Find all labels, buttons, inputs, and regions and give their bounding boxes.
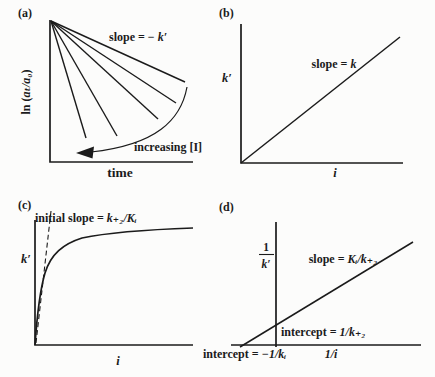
arrowhead-icon xyxy=(76,147,94,159)
panel-d-xlabel: 1/i xyxy=(325,347,338,361)
panel-a-ylabel-suffix: ) xyxy=(19,70,33,74)
panel-a-arrow-label: increasing [I] xyxy=(134,140,202,154)
panel-b-slope-prefix: slope = xyxy=(312,57,351,71)
panel-d-y-intercept-label: intercept = 1/k₊₂ xyxy=(281,325,365,339)
panel-b-axes xyxy=(241,24,403,163)
panel-d-frac-den: k′ xyxy=(262,258,271,270)
panel-d-x-intercept-var: −1/kᵢ xyxy=(262,347,287,361)
decay-line-5 xyxy=(51,21,86,138)
decay-line-4 xyxy=(51,21,117,136)
panel-b-slope-var: k xyxy=(350,57,356,71)
panel-a-ylabel-var: aₜ/a₀ xyxy=(19,74,33,98)
panel-d-tag: (d) xyxy=(219,200,234,214)
panel-a-xlabel: time xyxy=(107,165,132,180)
panel-d-slope-var: Kᵢ/k₊₂ xyxy=(346,252,377,266)
panel-c-saturation-curve xyxy=(35,228,193,345)
panel-d-slope-label: slope = Kᵢ/k₊₂ xyxy=(309,252,378,266)
kinetics-figure: (a) ln (aₜ/a₀) slope = − k′ increasing [… xyxy=(0,0,435,377)
panel-d-x-intercept-label: intercept = −1/kᵢ xyxy=(203,347,286,361)
figure-canvas: (a) ln (aₜ/a₀) slope = − k′ increasing [… xyxy=(0,0,435,377)
panel-b-ylabel: k′ xyxy=(222,71,232,85)
panel-b-slope-label: slope = k xyxy=(312,57,357,71)
panel-b: (b) slope = k k′ i xyxy=(219,6,403,180)
panel-b-tag: (b) xyxy=(219,6,234,20)
panel-a-tag: (a) xyxy=(18,6,32,20)
panel-a-ylabel: ln (aₜ/a₀) xyxy=(19,70,33,115)
panel-a-ylabel-prefix: ln ( xyxy=(19,97,33,114)
panel-c-tag: (c) xyxy=(18,198,31,212)
panel-a-slope-prefix: slope = − xyxy=(109,30,158,44)
panel-c-axes xyxy=(35,220,193,345)
panel-c-initial-slope-var: k₊₂/Kᵢ xyxy=(107,211,137,225)
panel-b-line xyxy=(241,37,400,163)
panel-c-ylabel: k′ xyxy=(21,252,31,266)
panel-d-ylabel-fraction: 1 k′ xyxy=(259,241,274,270)
panel-a: (a) ln (aₜ/a₀) slope = − k′ increasing [… xyxy=(18,6,202,180)
panel-b-xlabel: i xyxy=(333,166,337,180)
panel-d-x-intercept-prefix: intercept = xyxy=(203,347,262,361)
panel-a-slope-var: k′ xyxy=(158,30,167,44)
panel-d-y-intercept-var: 1/k₊₂ xyxy=(340,325,366,339)
panel-c: (c) initial slope = k₊₂/Kᵢ k′ i xyxy=(18,198,193,368)
panel-d-frac-num: 1 xyxy=(263,241,269,253)
panel-c-xlabel: i xyxy=(116,354,120,368)
panel-d: (d) 1 k′ slope = Kᵢ/k₊₂ intercept = 1/k₊… xyxy=(203,200,421,361)
panel-a-slope-label: slope = − k′ xyxy=(109,30,167,44)
panel-d-slope-prefix: slope = xyxy=(309,252,348,266)
panel-c-initial-slope-prefix: initial slope = xyxy=(35,211,107,225)
panel-d-y-intercept-prefix: intercept = xyxy=(281,325,340,339)
